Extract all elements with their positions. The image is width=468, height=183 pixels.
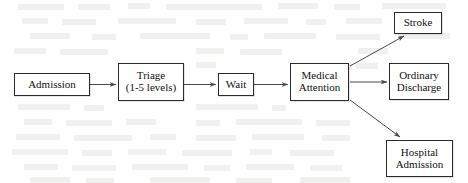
node-admission-label: Admission [28, 79, 76, 91]
node-hospital-admission[interactable]: Hospital Admission [386, 140, 453, 177]
edge-medical-attention-to-stroke [350, 36, 404, 66]
node-ordinary-discharge-label-line1: Ordinary [399, 70, 439, 82]
node-hospital-admission-label-line1: Hospital [401, 147, 438, 159]
node-stroke[interactable]: Stroke [394, 12, 442, 34]
node-medical-attention[interactable]: Medical Attention [290, 63, 349, 101]
node-ordinary-discharge[interactable]: Ordinary Discharge [389, 63, 449, 100]
node-medical-attention-label-line2: Attention [299, 82, 341, 94]
node-wait-label: Wait [226, 79, 247, 91]
edge-medical-attention-to-hospital-admission [350, 100, 400, 137]
node-ordinary-discharge-label-line2: Discharge [397, 82, 441, 94]
node-stroke-label: Stroke [404, 17, 433, 29]
node-triage-label-line2: (1-5 levels) [126, 82, 176, 94]
node-admission[interactable]: Admission [14, 73, 90, 96]
flowchart-diagram: Admission Triage (1-5 levels) Wait Medic… [0, 0, 468, 183]
node-triage[interactable]: Triage (1-5 levels) [118, 63, 184, 101]
node-wait[interactable]: Wait [218, 73, 254, 96]
node-hospital-admission-label-line2: Admission [396, 159, 444, 171]
